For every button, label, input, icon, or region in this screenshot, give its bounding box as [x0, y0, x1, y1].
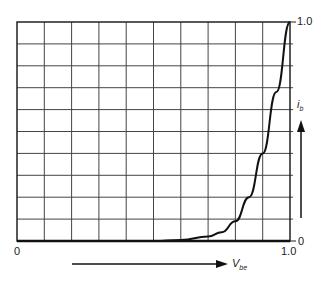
x-max-label: 1.0 [281, 245, 296, 257]
x-origin-label: 0 [14, 245, 20, 257]
x-axis-title: Vbe [232, 257, 247, 271]
y-max-label: 1.0 [297, 15, 312, 27]
grid [17, 22, 293, 241]
x-axis-title-sub: be [239, 264, 247, 271]
arrow-up-icon [297, 120, 305, 132]
y-axis-title-sub: b [299, 105, 303, 112]
chart-plot [0, 0, 322, 281]
arrow-right-icon [216, 260, 228, 268]
y-axis-title: ib [297, 98, 303, 112]
y-origin-label: 0 [298, 235, 304, 247]
